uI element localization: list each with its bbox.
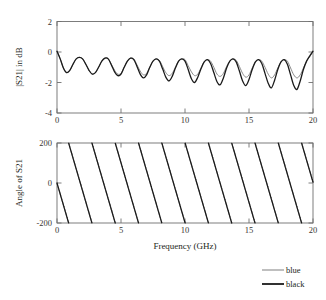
- magnitude-curve-blue: [57, 51, 313, 78]
- magnitude-xtick-3: 15: [245, 115, 254, 125]
- phase-curve-black: [57, 143, 313, 223]
- phase-xtick-0: 0: [55, 225, 59, 235]
- magnitude-x-ticks: [57, 22, 313, 114]
- phase-ytick-0: 200: [39, 138, 52, 148]
- phase-ytick-2: -200: [36, 218, 52, 228]
- phase-xtick-2: 10: [181, 225, 190, 235]
- magnitude-ytick-0: 2: [48, 17, 52, 27]
- phase-curves: [57, 143, 313, 223]
- magnitude-curves: [57, 51, 313, 89]
- figure-container: 0 5 10 15 20 2 0 -2 -4 |S21| in dB: [0, 0, 326, 300]
- magnitude-ylabel: |S21| in dB: [14, 47, 24, 87]
- magnitude-ytick-1: 0: [48, 47, 52, 57]
- phase-xlabel: Frequency (GHz): [153, 241, 216, 251]
- phase-ytick-1: 0: [48, 178, 52, 188]
- magnitude-ytick-3: -4: [45, 108, 53, 118]
- phase-ylabel: Angle of S21: [14, 159, 24, 207]
- phase-xtick-4: 20: [309, 225, 318, 235]
- phase-xtick-3: 15: [245, 225, 254, 235]
- magnitude-xtick-2: 10: [181, 115, 190, 125]
- magnitude-ytick-2: -2: [45, 78, 52, 88]
- magnitude-xtick-4: 20: [309, 115, 318, 125]
- magnitude-xtick-0: 0: [55, 115, 59, 125]
- magnitude-axes-frame: [57, 22, 313, 114]
- magnitude-y-ticks: [57, 22, 313, 114]
- magnitude-curve-black: [57, 51, 313, 89]
- phase-plot: 0 5 10 15 20 200 0 -200 Angle of S21 Fre…: [14, 138, 317, 251]
- magnitude-plot: 0 5 10 15 20 2 0 -2 -4 |S21| in dB: [14, 17, 317, 126]
- magnitude-xtick-1: 5: [119, 115, 123, 125]
- legend-label-black: black: [286, 279, 305, 289]
- legend-label-blue: blue: [286, 265, 301, 275]
- phase-xtick-1: 5: [119, 225, 123, 235]
- s-parameter-figure: 0 5 10 15 20 2 0 -2 -4 |S21| in dB: [0, 0, 326, 300]
- legend: blue black: [262, 265, 305, 289]
